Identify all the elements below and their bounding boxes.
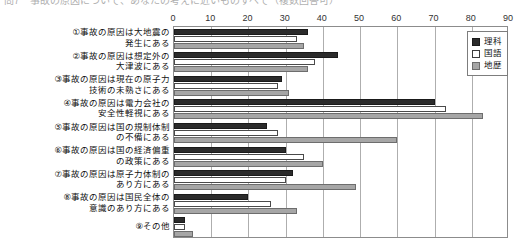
category-label-1: ①事故の原因は大地震の 発生にある <box>72 27 170 48</box>
chart-title-strip: 問7 事故の原因について、あなたの考えに近いものすべて（複数回答可） <box>0 0 514 11</box>
category-label-4: ④事故の原因は電力会社の 安全性軽視にある <box>63 98 170 119</box>
x-tick-80: 80 <box>466 13 476 24</box>
bar-rika-2 <box>174 52 338 58</box>
bar-rika-3 <box>174 76 282 82</box>
bar-kokugo-5 <box>174 130 278 136</box>
x-tick-50: 50 <box>354 13 364 24</box>
x-tick-0: 0 <box>170 13 175 24</box>
bar-rika-7 <box>174 170 293 176</box>
legend-swatch-rika-icon <box>472 38 480 46</box>
bar-kokugo-9 <box>174 224 185 230</box>
x-tick-40: 40 <box>317 13 327 24</box>
category-label-7: ⑦事故の原因は原子力体制の あり方にある <box>54 169 170 190</box>
bar-chireki-2 <box>174 66 308 72</box>
category-label-2: ②事故の原因は想定外の 大津波にある <box>72 51 170 72</box>
bar-kokugo-3 <box>174 83 278 89</box>
bar-kokugo-7 <box>174 177 286 183</box>
bar-chireki-4 <box>174 113 483 119</box>
x-tick-60: 60 <box>391 13 401 24</box>
x-tick-10: 10 <box>205 13 215 24</box>
gridline-50 <box>360 27 361 237</box>
category-label-6: ⑥事故の原因は国の経済偏重 の政策にある <box>54 145 170 166</box>
bar-rika-9 <box>174 217 185 223</box>
bar-rika-8 <box>174 194 248 200</box>
bar-kokugo-6 <box>174 154 304 160</box>
bar-chireki-9 <box>174 231 193 237</box>
gridline-70 <box>435 27 436 237</box>
bar-chireki-5 <box>174 137 397 143</box>
legend-swatch-kokugo-icon <box>472 50 480 58</box>
bar-chireki-1 <box>174 43 304 49</box>
bar-chireki-3 <box>174 90 289 96</box>
bar-kokugo-2 <box>174 59 315 65</box>
plot-area <box>173 26 508 238</box>
legend-label-rika: 理科 <box>484 37 502 46</box>
gridline-40 <box>323 27 324 237</box>
bar-kokugo-1 <box>174 36 297 42</box>
legend-item-kokugo: 国語 <box>472 48 502 59</box>
bar-chireki-7 <box>174 184 356 190</box>
category-label-5: ⑤事故の原因は国の規制体制 の不備にある <box>54 122 170 143</box>
legend-label-chireki: 地歴 <box>484 61 502 70</box>
bar-rika-6 <box>174 147 286 153</box>
survey-bar-chart: 問7 事故の原因について、あなたの考えに近いものすべて（複数回答可） 01020… <box>0 0 514 249</box>
legend-label-kokugo: 国語 <box>484 49 502 58</box>
legend-item-rika: 理科 <box>472 36 502 47</box>
legend-swatch-chireki-icon <box>472 62 480 70</box>
category-label-9: ⑨その他 <box>135 221 170 232</box>
x-tick-70: 70 <box>429 13 439 24</box>
bar-rika-5 <box>174 123 267 129</box>
x-tick-20: 20 <box>242 13 252 24</box>
bar-kokugo-8 <box>174 201 271 207</box>
bar-chireki-6 <box>174 161 323 167</box>
bar-chireki-8 <box>174 208 297 214</box>
category-label-column: ①事故の原因は大地震の 発生にある②事故の原因は想定外の 大津波にある③事故の原… <box>0 26 173 238</box>
x-tick-30: 30 <box>280 13 290 24</box>
gridline-60 <box>397 27 398 237</box>
x-tick-90: 90 <box>503 13 513 24</box>
legend-item-chireki: 地歴 <box>472 60 502 71</box>
bar-rika-1 <box>174 29 308 35</box>
x-axis-tick-labels: 0102030405060708090 <box>0 13 514 26</box>
category-label-8: ⑧事故の原因は国民全体の 意識のあり方にある <box>63 192 170 213</box>
bar-rika-4 <box>174 99 435 105</box>
chart-legend: 理科国語地歴 <box>467 31 508 76</box>
bar-kokugo-4 <box>174 106 446 112</box>
category-label-3: ③事故の原因は現在の原子力 技術の未熟さにある <box>54 74 170 95</box>
chart-title: 問7 事故の原因について、あなたの考えに近いものすべて（複数回答可） <box>4 0 339 7</box>
